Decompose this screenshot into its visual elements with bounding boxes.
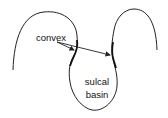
basin-label: basin — [82, 90, 112, 100]
convex-label: convex — [36, 33, 66, 43]
convex-emphasis-left — [70, 40, 77, 66]
arrow-to-right-convex — [57, 42, 110, 55]
convex-emphasis-right — [112, 42, 116, 68]
sulcal-label: sulcal — [82, 77, 112, 87]
sulcus-diagram — [0, 0, 168, 118]
